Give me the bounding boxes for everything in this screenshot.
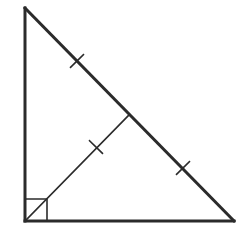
median <box>25 115 130 222</box>
right-triangle-diagram <box>0 0 248 232</box>
triangle <box>25 8 234 221</box>
tick-mark-median <box>90 141 103 154</box>
